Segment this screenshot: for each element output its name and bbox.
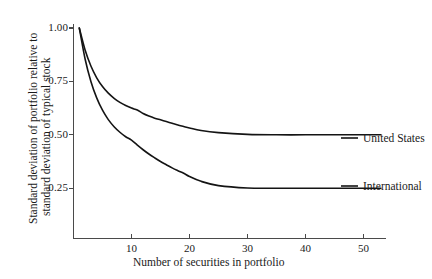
- series-line-united-states: [79, 28, 381, 135]
- x-tick-label: 10: [112, 243, 152, 254]
- x-tick-label: 20: [170, 243, 210, 254]
- y-tick-label: 1.00: [28, 22, 68, 33]
- legend-label-united-states: United States: [363, 132, 425, 144]
- series-line-international: [79, 28, 381, 188]
- series-paths: [79, 28, 381, 188]
- y-tick-marks: [69, 28, 74, 188]
- x-tick-label: 40: [286, 243, 326, 254]
- x-tick-label: 50: [344, 243, 384, 254]
- chart-figure: Standard deviation of portfolio relative…: [0, 0, 432, 279]
- x-axis-title: Number of securities in portfolio: [133, 256, 284, 268]
- legend-label-international: International: [363, 180, 422, 192]
- y-tick-label: 0.25: [28, 182, 68, 193]
- x-tick-marks: [132, 234, 364, 239]
- x-tick-label: 30: [228, 243, 268, 254]
- y-tick-label: 0.50: [28, 129, 68, 140]
- y-tick-label: 0.75: [28, 75, 68, 86]
